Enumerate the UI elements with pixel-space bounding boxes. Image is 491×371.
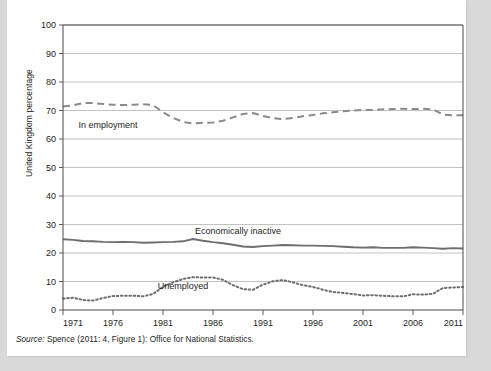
page-sheet: United Kingdom percentage 01020304050607…: [7, 0, 466, 356]
source-prefix: Source:: [16, 335, 45, 344]
y-tick-label: 60: [46, 134, 56, 144]
y-tick-label: 50: [46, 163, 56, 173]
figure-container: United Kingdom percentage 01020304050607…: [7, 0, 466, 356]
series-line-unemployed: [63, 277, 463, 300]
x-tick-label: 1991: [253, 318, 273, 328]
x-tick-label: 1981: [153, 318, 173, 328]
line-chart: 0102030405060708090100 19711976198119861…: [7, 0, 466, 330]
x-tick-label: 1986: [203, 318, 223, 328]
x-tick-label: 1971: [63, 318, 83, 328]
x-tick-label: 1976: [103, 318, 123, 328]
x-tick-mark-group: [63, 310, 463, 315]
series-label-in-employment: In employment: [78, 120, 138, 130]
y-tick-label: 40: [46, 191, 56, 201]
source-caption: Source: Spence (2011: 4, Figure 1): Offi…: [16, 335, 254, 344]
x-tick-label: 2006: [403, 318, 423, 328]
y-tick-label: 90: [46, 49, 56, 59]
y-tick-label: 70: [46, 106, 56, 116]
y-tick-label: 100: [41, 20, 56, 30]
x-tick-label: 1996: [303, 318, 323, 328]
y-tick-label: 30: [46, 220, 56, 230]
y-tick-label: 0: [51, 305, 56, 315]
y-tick-label: 80: [46, 77, 56, 87]
series-label-economically-inactive: Economically inactive: [195, 226, 281, 236]
x-tick-label: 2011: [444, 318, 463, 328]
x-tick-label: 2001: [353, 318, 373, 328]
series-label-unemployed: Unemployed: [158, 281, 209, 291]
series-label-group: In employmentEconomically inactiveUnempl…: [78, 120, 281, 291]
y-tick-label-group: 0102030405060708090100: [41, 20, 56, 315]
y-tick-mark-group: [59, 25, 63, 310]
gridline-group: [63, 25, 463, 282]
series-path-group: [63, 103, 463, 301]
series-line-economically-inactive: [63, 239, 463, 249]
y-tick-label: 10: [46, 277, 56, 287]
y-tick-label: 20: [46, 248, 56, 258]
x-tick-label-group: 197119761981198619911996200120062011: [63, 318, 463, 328]
source-citation: Spence (2011: 4, Figure 1): Office for N…: [45, 335, 254, 344]
